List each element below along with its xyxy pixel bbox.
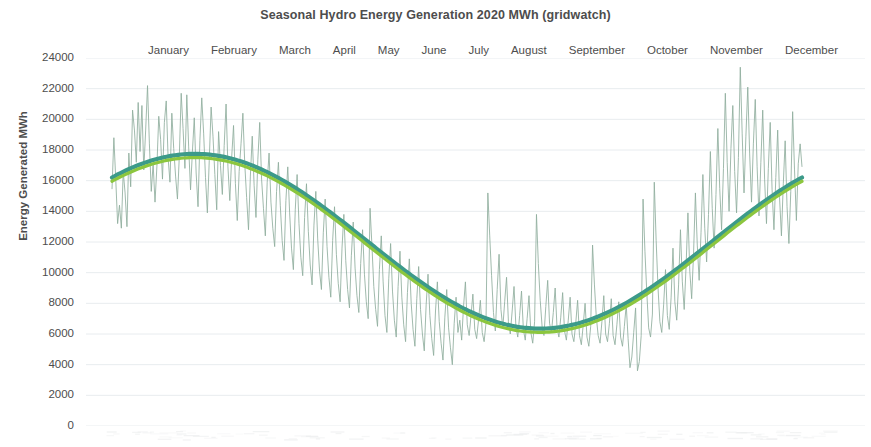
y-axis-tick-labels: 2400022000200001800016000140001200010000…: [8, 0, 74, 447]
month-label-october: October: [647, 44, 688, 57]
y-tick-10000: 10000: [8, 267, 74, 278]
month-label-january: January: [148, 44, 189, 57]
y-tick-12000: 12000: [8, 236, 74, 247]
chart-title: Seasonal Hydro Energy Generation 2020 MW…: [0, 8, 871, 22]
series-daily-hydro-line: [112, 67, 802, 371]
y-tick-24000: 24000: [8, 52, 74, 63]
y-tick-2000: 2000: [8, 389, 74, 400]
y-tick-22000: 22000: [8, 83, 74, 94]
month-label-may: May: [378, 44, 400, 57]
plot-svg: [86, 58, 865, 426]
chart-root: Seasonal Hydro Energy Generation 2020 MW…: [0, 0, 871, 447]
y-tick-8000: 8000: [8, 297, 74, 308]
month-label-december: December: [785, 44, 838, 57]
y-tick-16000: 16000: [8, 175, 74, 186]
month-label-june: June: [422, 44, 447, 57]
x-axis-dense-tick-labels: [86, 428, 865, 447]
month-label-august: August: [511, 44, 547, 57]
month-label-february: February: [211, 44, 257, 57]
month-label-july: July: [469, 44, 489, 57]
x-tick-label-smudge: [86, 428, 865, 447]
y-tick-20000: 20000: [8, 113, 74, 124]
y-tick-18000: 18000: [8, 144, 74, 155]
y-tick-4000: 4000: [8, 359, 74, 370]
month-label-september: September: [569, 44, 625, 57]
month-label-april: April: [333, 44, 356, 57]
y-tick-14000: 14000: [8, 205, 74, 216]
month-label-march: March: [279, 44, 311, 57]
y-tick-6000: 6000: [8, 328, 74, 339]
y-tick-0: 0: [8, 420, 74, 431]
month-label-november: November: [710, 44, 763, 57]
plot-area: [86, 58, 865, 426]
